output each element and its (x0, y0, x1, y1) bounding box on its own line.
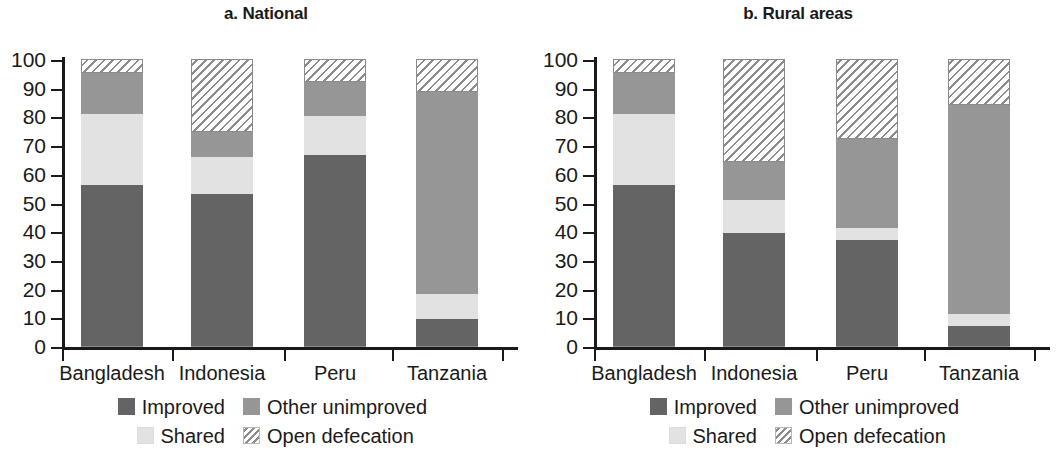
x-axis-category-label: Peru (314, 362, 356, 385)
panel-rural-areas: b. Rural areas 0102030405060708090100 Im… (532, 0, 1064, 451)
y-axis-tick-label: 50 (518, 192, 578, 216)
y-axis-tick-label: 20 (0, 278, 46, 302)
legend-item-improved-b: Improved (589, 397, 757, 417)
y-axis-tick-label: 80 (0, 105, 46, 129)
y-axis-tick (583, 204, 594, 206)
x-axis-tick (816, 349, 818, 361)
bar-segment-shared (191, 157, 253, 194)
y-axis-tick-label: 80 (518, 105, 578, 129)
bar-segment-shared (416, 294, 478, 318)
bar-indonesia (723, 60, 785, 347)
bar-segment-open-defecation (304, 59, 366, 82)
bar-indonesia (191, 60, 253, 347)
bar-segment-improved (613, 185, 675, 346)
bar-segment-other-unimproved (836, 139, 898, 228)
legend-item-open-defecation-a: Open defecation (225, 426, 475, 446)
y-axis-tick-label: 30 (518, 249, 578, 273)
legend-item-shared-b: Shared (589, 426, 757, 446)
legend-a: Improved Other unimproved Shared Open de… (0, 392, 532, 450)
legend-item-open-defecation-b: Open defecation (757, 426, 1007, 446)
plot-area-a: 0102030405060708090100 (62, 60, 502, 347)
bar-segment-shared (723, 200, 785, 233)
x-axis-tick (284, 349, 286, 361)
y-axis-line-b (594, 57, 597, 350)
x-axis-category-label: Indonesia (179, 362, 266, 385)
x-axis-tick (594, 349, 596, 361)
x-axis-tick (924, 349, 926, 361)
y-axis-tick-label: 100 (0, 48, 46, 72)
legend-row-2-b: Shared Open defecation (532, 421, 1064, 450)
bar-segment-other-unimproved (723, 162, 785, 199)
legend-label-improved: Improved (142, 397, 225, 417)
bar-peru (836, 60, 898, 347)
bar-segment-improved (723, 233, 785, 346)
y-axis-tick (51, 318, 62, 320)
x-axis-category-label: Peru (846, 362, 888, 385)
x-axis-tick (502, 349, 504, 361)
legend-label-other-unimproved: Other unimproved (267, 397, 427, 417)
legend-row-2-a: Shared Open defecation (0, 421, 532, 450)
bar-segment-open-defecation (836, 59, 898, 139)
x-axis-category-label: Bangladesh (591, 362, 697, 385)
stacked-bar-chart-figure: a. National 0102030405060708090100 Impro… (0, 0, 1064, 451)
legend-label-other-unimproved: Other unimproved (799, 397, 959, 417)
bar-segment-open-defecation (723, 59, 785, 162)
bar-segment-shared (836, 228, 898, 239)
y-axis-tick (583, 146, 594, 148)
x-axis-category-label: Indonesia (711, 362, 798, 385)
y-axis-tick-label: 70 (518, 134, 578, 158)
y-axis-tick (51, 175, 62, 177)
bar-segment-shared (304, 116, 366, 155)
y-axis-tick-label: 0 (0, 335, 46, 359)
panel-title-a: a. National (0, 4, 532, 24)
bar-tanzania (948, 60, 1010, 347)
y-axis-tick (583, 60, 594, 62)
panel-title-b: b. Rural areas (532, 4, 1064, 24)
y-axis-tick (583, 117, 594, 119)
y-axis-tick-label: 70 (0, 134, 46, 158)
bar-segment-other-unimproved (304, 82, 366, 116)
x-axis-category-label: Tanzania (407, 362, 487, 385)
y-axis-tick (583, 261, 594, 263)
bar-tanzania (416, 60, 478, 347)
legend-swatch-improved-icon (118, 398, 135, 415)
y-axis-tick-label: 40 (0, 220, 46, 244)
legend-swatch-shared-icon (669, 427, 686, 444)
bar-segment-other-unimproved (613, 73, 675, 113)
legend-swatch-open-defecation-icon (243, 427, 260, 444)
legend-label-shared: Shared (693, 426, 758, 446)
x-axis-tick (62, 349, 64, 361)
legend-item-shared-a: Shared (57, 426, 225, 446)
y-axis-tick-label: 50 (0, 192, 46, 216)
y-axis-tick-label: 40 (518, 220, 578, 244)
legend-label-open-defecation: Open defecation (267, 426, 414, 446)
y-axis-tick (51, 232, 62, 234)
y-axis-tick-label: 10 (518, 306, 578, 330)
y-axis-tick (51, 60, 62, 62)
bar-segment-improved (81, 185, 143, 346)
y-axis-tick (51, 261, 62, 263)
bar-segment-improved (836, 240, 898, 346)
y-axis-tick (583, 290, 594, 292)
panel-national: a. National 0102030405060708090100 Impro… (0, 0, 532, 451)
y-axis-tick (51, 146, 62, 148)
bar-segment-improved (416, 319, 478, 346)
x-axis-line-b (594, 347, 1050, 350)
bar-segment-shared (81, 114, 143, 186)
bar-segment-other-unimproved (948, 105, 1010, 315)
legend-item-other-unimproved-b: Other unimproved (757, 397, 1007, 417)
y-axis-tick (51, 117, 62, 119)
y-axis-tick (51, 290, 62, 292)
y-axis-tick (51, 89, 62, 91)
bar-segment-improved (191, 194, 253, 346)
legend-swatch-improved-icon (650, 398, 667, 415)
y-axis-tick-label: 90 (0, 77, 46, 101)
legend-row-1-a: Improved Other unimproved (0, 392, 532, 421)
bar-segment-open-defecation (191, 59, 253, 132)
legend-swatch-shared-icon (137, 427, 154, 444)
y-axis-tick-label: 10 (0, 306, 46, 330)
bar-segment-open-defecation (948, 59, 1010, 105)
legend-item-other-unimproved-a: Other unimproved (225, 397, 475, 417)
x-axis-category-label: Bangladesh (59, 362, 165, 385)
bar-segment-improved (948, 326, 1010, 346)
